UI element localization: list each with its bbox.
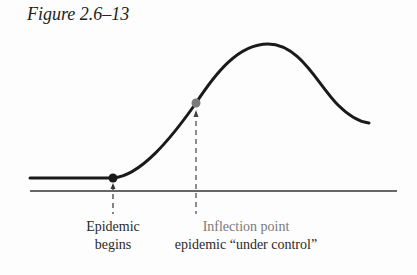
- inflection-label: Inflection point epidemic “under control…: [146, 218, 346, 254]
- under-control-text: epidemic “under control”: [146, 236, 346, 254]
- inflection-point-dot: [192, 99, 201, 108]
- inflection-arrowhead-icon: [194, 110, 199, 117]
- epidemic-begins-dot: [109, 174, 118, 183]
- inflection-point-text: Inflection point: [146, 218, 346, 236]
- epidemic-begins-arrowhead-icon: [111, 183, 116, 189]
- epidemic-curve: [30, 44, 369, 178]
